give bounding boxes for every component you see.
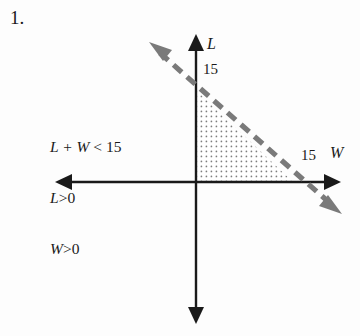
inequality-lhs: L	[50, 189, 59, 206]
inequality-line-1: L + W < 15	[50, 138, 121, 155]
inequality-operator: <	[93, 138, 102, 155]
inequality-rhs: 0	[72, 240, 80, 257]
inequality-rhs: 0	[67, 189, 75, 206]
inequality-lhs: W	[50, 240, 63, 257]
inequality-line-2: L>0	[50, 189, 121, 206]
inequality-line-3: W>0	[50, 240, 121, 257]
intercept-label-l-15: 15	[203, 62, 218, 77]
inequality-rhs: 15	[106, 138, 122, 155]
shaded-region	[196, 90, 293, 182]
boundary-line-dashed	[149, 42, 342, 214]
axis-label-l: L	[207, 36, 216, 52]
problem-number: 1.	[10, 8, 24, 27]
axis-label-w: W	[330, 145, 343, 161]
inequality-system: L + W < 15 L>0 W>0	[50, 104, 121, 274]
inequality-lhs: L + W	[50, 138, 89, 155]
inequality-operator: >	[63, 240, 72, 257]
intercept-label-w-15: 15	[301, 148, 316, 163]
